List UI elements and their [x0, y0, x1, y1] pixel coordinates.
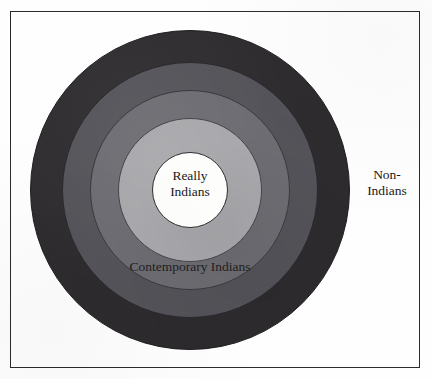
- label-really-indians: Really Indians: [140, 168, 240, 200]
- concentric-circle-diagram: Really Indians Contemporary Indians Non-…: [0, 0, 432, 379]
- figure-page: Really Indians Contemporary Indians Non-…: [0, 0, 432, 379]
- label-non-indians: Non- Indians: [352, 167, 422, 199]
- label-contemporary-indians: Contemporary Indians: [60, 259, 320, 275]
